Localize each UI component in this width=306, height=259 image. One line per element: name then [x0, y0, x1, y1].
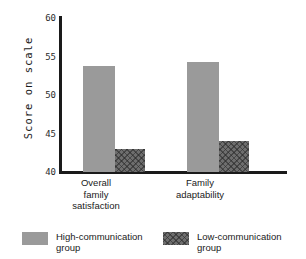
legend-swatch-low-communication — [163, 232, 189, 245]
y-tick-40: 40 — [45, 167, 56, 177]
category-line-2: family — [36, 189, 156, 201]
bar-family-adaptability-low-communication — [219, 141, 249, 172]
y-tick-45: 45 — [45, 129, 56, 139]
legend-label-high-communication: High-communication group — [56, 231, 160, 253]
legend-item-low-communication: Low-communication group — [163, 231, 301, 253]
y-axis-ticks: 60 55 50 45 40 — [0, 0, 56, 259]
y-tick-60: 60 — [45, 13, 56, 23]
bar-family-adaptability-high-communication — [187, 62, 219, 172]
y-tick-55: 55 — [45, 52, 56, 62]
bar-chart: Score on scale 60 55 50 45 40 Overall fa… — [0, 0, 306, 259]
legend-item-high-communication: High-communication group — [22, 231, 160, 253]
legend-label-line-2: group — [56, 242, 160, 253]
legend-swatch-high-communication — [22, 232, 48, 245]
y-tick-50: 50 — [45, 90, 56, 100]
category-line-2: adaptability — [140, 189, 260, 201]
legend-label-low-communication: Low-communication group — [197, 231, 301, 253]
legend-label-line-1: Low-communication — [197, 231, 301, 242]
x-category-label-overall-family-satisfaction: Overall family satisfaction — [36, 177, 156, 212]
chart-legend: High-communication group Low-communicati… — [0, 231, 306, 259]
bar-overall-family-satisfaction-low-communication — [115, 149, 145, 172]
bar-overall-family-satisfaction-high-communication — [83, 66, 115, 172]
category-line-1: Family — [140, 177, 260, 189]
legend-label-line-1: High-communication — [56, 231, 160, 242]
category-line-1: Overall — [36, 177, 156, 189]
x-category-label-family-adaptability: Family adaptability — [140, 177, 260, 200]
category-line-3: satisfaction — [36, 200, 156, 212]
legend-label-line-2: group — [197, 242, 301, 253]
plot-area — [62, 18, 282, 172]
